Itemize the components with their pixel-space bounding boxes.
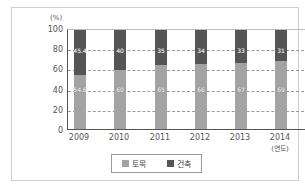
y-tick-40: 40 — [33, 86, 63, 95]
segment-arch: 45.4 — [74, 30, 86, 75]
y-tick-20: 20 — [33, 106, 63, 115]
value-label-civil: 67 — [231, 86, 251, 93]
y-tick-60: 60 — [33, 65, 63, 74]
x-tick-2013: 2013 — [225, 133, 255, 142]
segment-arch: 34 — [195, 30, 207, 64]
legend-swatch-civil — [122, 160, 129, 167]
value-label-arch: 31 — [271, 46, 291, 53]
y-axis-unit: (%) — [50, 14, 62, 22]
value-label-arch: 45.4 — [70, 46, 90, 53]
segment-civil: 66 — [195, 64, 207, 129]
bar-2011: 3565 — [155, 30, 167, 129]
x-tick-2012: 2012 — [185, 133, 215, 142]
legend-label-arch: 건축 — [177, 158, 191, 169]
segment-arch: 33 — [235, 30, 247, 63]
legend-item-arch: 건축 — [167, 158, 191, 169]
bar-2010: 4060 — [114, 30, 126, 129]
bar-2012: 3466 — [195, 30, 207, 129]
value-label-arch: 33 — [231, 46, 251, 53]
plot-area: 45.454.640603565346633673169 — [67, 29, 305, 130]
segment-arch: 35 — [155, 30, 167, 65]
legend: 토목 건축 — [111, 154, 202, 173]
segment-civil: 54.6 — [74, 75, 86, 129]
legend-item-civil: 토목 — [122, 158, 146, 169]
gridline — [68, 111, 305, 112]
x-axis-unit: (연도) — [265, 143, 295, 153]
x-tick-2014: 2014 — [265, 133, 295, 142]
segment-civil: 60 — [114, 70, 126, 129]
y-tick-80: 80 — [33, 45, 63, 54]
segment-arch: 31 — [275, 30, 287, 61]
gridline — [68, 91, 305, 92]
segment-civil: 67 — [235, 63, 247, 129]
value-label-civil: 66 — [191, 86, 211, 93]
value-label-civil: 65 — [151, 86, 171, 93]
segment-civil: 65 — [155, 65, 167, 129]
segment-civil: 69 — [275, 61, 287, 129]
x-tick-2010: 2010 — [104, 133, 134, 142]
x-tick-2009: 2009 — [64, 133, 94, 142]
bar-2013: 3367 — [235, 30, 247, 129]
gridline — [68, 70, 305, 71]
y-tick-0: 0 — [33, 126, 63, 135]
segment-arch: 40 — [114, 30, 126, 70]
value-label-arch: 40 — [110, 46, 130, 53]
bar-2014: 3169 — [275, 30, 287, 129]
value-label-civil: 54.6 — [70, 86, 90, 93]
value-label-arch: 35 — [151, 46, 171, 53]
value-label-civil: 60 — [110, 86, 130, 93]
gridline — [68, 50, 305, 51]
x-tick-2011: 2011 — [145, 133, 175, 142]
bar-2009: 45.454.6 — [74, 30, 86, 129]
y-tick-100: 100 — [33, 25, 63, 34]
value-label-arch: 34 — [191, 46, 211, 53]
legend-swatch-arch — [167, 160, 174, 167]
value-label-civil: 69 — [271, 86, 291, 93]
legend-label-civil: 토목 — [132, 158, 146, 169]
